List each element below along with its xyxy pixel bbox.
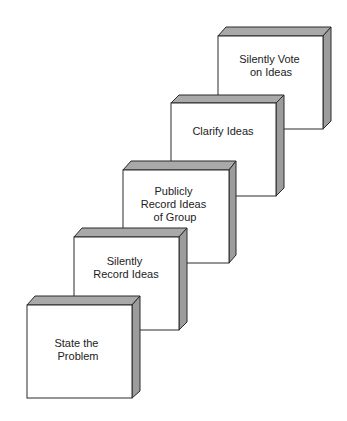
step-box-top-face xyxy=(74,228,187,237)
step-label: Clarify Ideas xyxy=(192,125,254,137)
staircase-diagram: Silently Vote on Ideas Clarify Ideas Pub… xyxy=(0,0,347,421)
step-box-top-face xyxy=(171,95,284,103)
step-box-side-face xyxy=(323,27,331,129)
step-box-top-face xyxy=(218,27,331,36)
step-label: State the Problem xyxy=(54,337,101,362)
step-box-side-face xyxy=(276,95,284,196)
step-box-1: State the Problem xyxy=(27,296,140,398)
step-box-side-face xyxy=(179,228,187,330)
step-box-side-face xyxy=(229,161,236,263)
step-box-side-face xyxy=(132,296,140,398)
step-box-top-face xyxy=(27,296,140,305)
step-box-top-face xyxy=(123,161,236,170)
